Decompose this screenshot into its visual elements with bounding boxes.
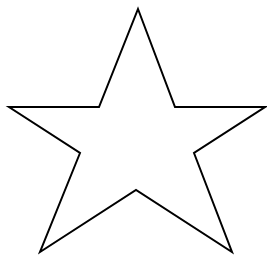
star-outline bbox=[9, 9, 265, 252]
star-icon bbox=[0, 0, 267, 261]
star-canvas bbox=[0, 0, 267, 261]
